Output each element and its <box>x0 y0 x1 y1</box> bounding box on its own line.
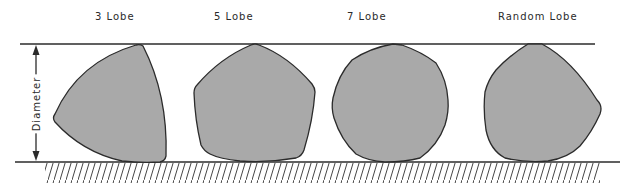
ground-hatching <box>45 163 600 183</box>
lobing-diagram: 3 Lobe 5 Lobe 7 Lobe Random Lobe Diamete… <box>0 0 631 189</box>
five-lobe-shape <box>194 44 315 162</box>
label-3-lobe: 3 Lobe <box>95 11 135 22</box>
label-7-lobe: 7 Lobe <box>347 11 387 22</box>
label-5-lobe: 5 Lobe <box>214 11 254 22</box>
seven-lobe-shape <box>332 44 448 162</box>
diameter-label: Diameter <box>31 75 42 134</box>
three-lobe-shape <box>54 45 167 163</box>
random-lobe-shape <box>484 44 601 162</box>
label-random-lobe: Random Lobe <box>498 11 578 22</box>
